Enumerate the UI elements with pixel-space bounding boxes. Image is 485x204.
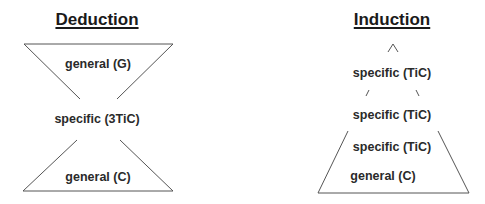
- induction-side-marks: [366, 90, 419, 96]
- induction-title: Induction: [354, 10, 430, 30]
- deduction-middle-label: specific (3TiC): [54, 112, 139, 126]
- induction-apex-caret: [388, 44, 398, 52]
- deduction-top-label: general (G): [65, 57, 131, 71]
- deduction-title: Deduction: [55, 10, 138, 30]
- deduction-top-triangle: [24, 44, 173, 99]
- induction-row-3: specific (TiC): [353, 140, 431, 154]
- deduction-bottom-label: general (C): [65, 170, 130, 184]
- induction-row-2: specific (TiC): [353, 108, 431, 122]
- induction-row-4: general (C): [350, 169, 415, 183]
- induction-row-1: specific (TiC): [353, 66, 431, 80]
